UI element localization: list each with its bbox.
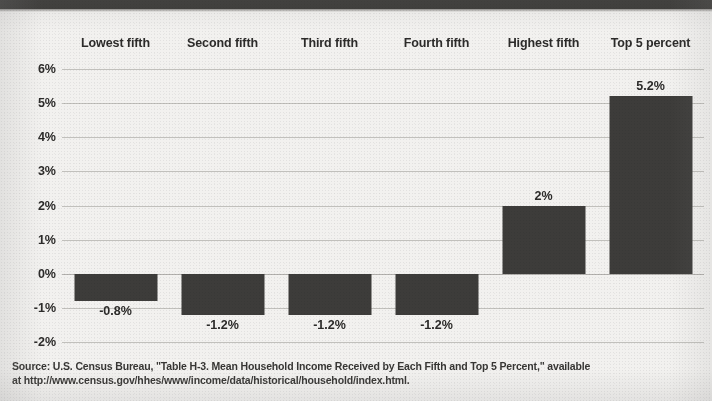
category-label-third-fifth: Third fifth: [276, 34, 383, 58]
bar-group: -0.8%-1.2%-1.2%-1.2%2%5.2%: [62, 69, 704, 342]
bar[interactable]: [181, 274, 264, 315]
top-border-shadow: [0, 9, 712, 12]
bar-slot: -1.2%: [276, 69, 383, 342]
y-axis-tick-label: -1%: [14, 303, 56, 313]
category-label-highest-fifth: Highest fifth: [490, 34, 597, 58]
bar-value-label: 5.2%: [636, 79, 665, 93]
y-axis-tick-label: 4%: [14, 132, 56, 142]
source-note-line-1: Source: U.S. Census Bureau, "Table H-3. …: [12, 360, 692, 374]
source-note-line-2: at http://www.census.gov/hhes/www/income…: [12, 374, 692, 388]
bar-value-label: -1.2%: [420, 318, 453, 332]
category-label-top-5-percent: Top 5 percent: [597, 34, 704, 58]
bar[interactable]: [395, 274, 478, 315]
y-axis-tick-label: 2%: [14, 201, 56, 211]
category-label-second-fifth: Second fifth: [169, 34, 276, 58]
bar-value-label: -0.8%: [99, 304, 132, 318]
bar-slot: -1.2%: [169, 69, 276, 342]
chart-figure: Lowest fifth Second fifth Third fifth Fo…: [0, 0, 712, 401]
y-axis-tick-label: 0%: [14, 269, 56, 279]
bar[interactable]: [288, 274, 371, 315]
y-axis-tick-label: 3%: [14, 166, 56, 176]
category-label-row: Lowest fifth Second fifth Third fifth Fo…: [62, 34, 704, 58]
bar[interactable]: [74, 274, 157, 301]
bar-slot: 5.2%: [597, 69, 704, 342]
bar[interactable]: [609, 96, 692, 273]
y-axis-tick-label: -2%: [14, 337, 56, 347]
bar[interactable]: [502, 206, 585, 274]
bar-slot: -1.2%: [383, 69, 490, 342]
gridline-neg2: [62, 342, 704, 343]
y-axis-tick-label: 5%: [14, 98, 56, 108]
category-label-lowest-fifth: Lowest fifth: [62, 34, 169, 58]
bar-slot: -0.8%: [62, 69, 169, 342]
source-note: Source: U.S. Census Bureau, "Table H-3. …: [12, 360, 692, 387]
top-border-rule: [0, 0, 712, 9]
bar-value-label: -1.2%: [206, 318, 239, 332]
bar-value-label: -1.2%: [313, 318, 346, 332]
bar-value-label: 2%: [534, 189, 552, 203]
bar-slot: 2%: [490, 69, 597, 342]
plot-area: 6%5%4%3%2%1%0%-1%-2% -0.8%-1.2%-1.2%-1.2…: [62, 69, 704, 342]
category-label-fourth-fifth: Fourth fifth: [383, 34, 490, 58]
y-axis-tick-label: 1%: [14, 235, 56, 245]
y-axis-tick-label: 6%: [14, 64, 56, 74]
